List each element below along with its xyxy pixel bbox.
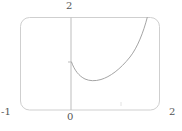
- x-axis-tick-label-origin: 0: [67, 112, 73, 122]
- plot-frame: [21, 18, 160, 111]
- plot-canvas: [0, 0, 182, 131]
- x-axis-tick-label-max: 2: [169, 107, 175, 117]
- function-plot-figure: 2 0 -1 2: [0, 0, 182, 131]
- x-axis-tick-label-min: -1: [1, 107, 11, 117]
- y-axis-tick-label-top: 2: [66, 1, 72, 11]
- curve-path: [72, 18, 148, 81]
